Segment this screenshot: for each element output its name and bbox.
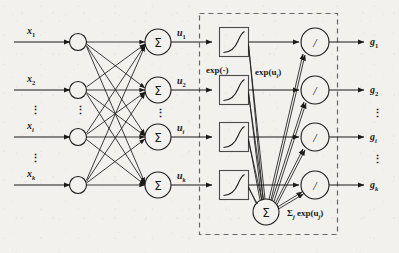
output-ellipsis-2: ⋮: [372, 153, 383, 165]
softmax-dashed-region: [200, 14, 338, 235]
u-label-1: u1: [177, 27, 186, 40]
input-node-2: [70, 82, 87, 99]
input-ellipsis-1: ⋮: [30, 104, 41, 116]
u-label-2: u2: [177, 75, 186, 88]
normalizer-label: Σj exp(uj): [287, 208, 323, 220]
sigma-glyph-1: Σ: [154, 36, 162, 50]
sigma-ellipsis: ⋮: [155, 107, 166, 119]
exp-box-2: [220, 76, 249, 105]
sigma-glyph-k: Σ: [154, 179, 162, 193]
exp-box-1: [220, 28, 249, 57]
input-node-1: [70, 34, 87, 51]
divide-glyphs: / / / /: [312, 36, 318, 193]
sigma-glyph-i: Σ: [154, 131, 162, 145]
network-diagram-svg: x1 x2 xi xk ⋮ ⋮ ⋮ Σ Σ Σ Σ ⋮ u1 u2 ui: [0, 0, 399, 253]
output-label-k: gk: [369, 179, 379, 192]
divide-glyph-i: /: [312, 131, 318, 145]
exp-box-i: [220, 123, 249, 152]
normalizer-sigma-glyph: Σ: [262, 206, 270, 220]
exp-box-k: [220, 171, 249, 200]
input-ellipses: ⋮ ⋮ ⋮: [30, 104, 86, 164]
output-label-1: g1: [369, 36, 378, 49]
output-label-2: g2: [369, 84, 378, 97]
output-label-i: gi: [369, 131, 377, 144]
sigma-glyph-2: Σ: [154, 84, 162, 98]
fully-connected-edges: [87, 42, 146, 185]
exp-u-edge-label: exp(ui): [255, 67, 281, 79]
divide-nodes: [301, 28, 329, 199]
divide-glyph-2: /: [312, 84, 318, 98]
output-labels: g1 g2 gi gk ⋮ ⋮: [369, 36, 383, 192]
output-wires: [329, 42, 364, 185]
normalizer-to-divide-edges: [269, 54, 306, 209]
sigma-glyphs: Σ Σ Σ Σ ⋮: [154, 36, 166, 193]
diagram-canvas: x1 x2 xi xk ⋮ ⋮ ⋮ Σ Σ Σ Σ ⋮ u1 u2 ui: [0, 0, 399, 253]
divide-glyph-1: /: [312, 36, 318, 50]
u-labels: u1 u2 ui uk: [177, 27, 187, 183]
input-label-2: x2: [26, 73, 35, 86]
exp-function-label: exp(·): [206, 65, 229, 75]
u-label-k: uk: [177, 170, 187, 183]
input-label-1: x1: [26, 25, 35, 38]
u-label-i: ui: [177, 122, 185, 135]
input-label-k: xk: [26, 168, 36, 181]
output-ellipsis-1: ⋮: [372, 107, 383, 119]
input-label-i: xi: [26, 120, 34, 133]
exp-boxes: [220, 28, 249, 200]
input-wires: [14, 42, 70, 185]
input-node-k: [70, 177, 87, 194]
divide-glyph-k: /: [312, 179, 318, 193]
input-node-i: [70, 129, 87, 146]
u-wires: [171, 42, 212, 185]
input-node-ellipsis: ⋮: [75, 104, 86, 116]
input-ellipsis-2: ⋮: [30, 152, 41, 164]
